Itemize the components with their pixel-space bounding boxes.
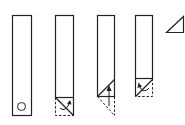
diagonal-fold-line	[136, 80, 153, 97]
strip-step-2	[56, 16, 74, 116]
strip-outline	[98, 16, 115, 97]
strip-outline	[13, 16, 32, 116]
diagonal-fold-line	[98, 80, 115, 97]
strip-step-3	[98, 16, 115, 116]
arrowhead-icon	[138, 83, 143, 89]
arrowhead-icon	[67, 100, 72, 105]
diagonal-fold-line	[56, 98, 74, 116]
strip-step-1	[13, 16, 32, 116]
strip-outline	[136, 16, 153, 79]
result-triangle	[167, 17, 184, 33]
folding-diagram	[0, 0, 185, 125]
up-arrow-icon	[107, 85, 112, 91]
dashed-fold-edge	[98, 97, 115, 116]
triangle-icon	[167, 17, 184, 33]
strip-step-4	[136, 16, 153, 97]
circle-marker-icon	[18, 103, 26, 111]
strip-outline	[56, 16, 74, 98]
